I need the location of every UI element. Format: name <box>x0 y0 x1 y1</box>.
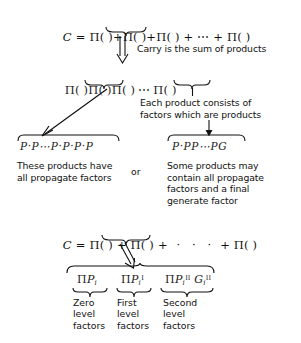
expansion-ellipsis: ⋯ <box>138 83 150 97</box>
second-equation-equals: = <box>76 238 86 252</box>
top-equation: C=Π( )+Π( )+Π( ) + ⋯ + Π( ) <box>55 16 250 44</box>
level-term-first: ΠPiI <box>121 273 144 287</box>
level-label-zero: Zero level factors <box>73 297 105 331</box>
g-symbol: G <box>194 273 203 286</box>
underbrace-level-first <box>116 288 152 297</box>
top-equation-term-4: Π( ) <box>227 30 250 44</box>
plus-sign: + <box>216 238 234 252</box>
left-product-expression: P·P⋯P·P·P·P <box>20 140 93 152</box>
superscript-roman-i: I <box>141 274 144 282</box>
p-symbol: P <box>175 273 183 286</box>
underbrace-level-zero <box>72 288 108 297</box>
level-term-zero: ΠPi <box>77 273 97 287</box>
or-separator: or <box>131 166 141 177</box>
pi-symbol: Π <box>77 273 87 286</box>
down-double-arrow-top <box>114 36 132 64</box>
p-symbol: P <box>87 273 95 286</box>
overbrace-levels <box>66 263 216 273</box>
superscript-roman-ii: II <box>206 274 211 282</box>
second-equation-ellipsis: · · · <box>177 238 212 252</box>
p-symbol: P <box>131 273 139 286</box>
top-equation-term-3: Π( ) <box>156 30 179 44</box>
pi-symbol: Π <box>121 273 131 286</box>
right-product-caption: Some products may contain all propagate … <box>167 160 264 206</box>
plus-sign: + <box>209 30 227 44</box>
top-equation-ellipsis: ⋯ <box>197 30 209 44</box>
level-label-first: First level factors <box>117 297 149 331</box>
underbrace-top-term2 <box>105 27 147 36</box>
pi-symbol: Π <box>165 273 175 286</box>
plus-sign: + <box>180 30 198 44</box>
underbrace-level-second <box>160 288 214 297</box>
tick-expansion-term4 <box>191 88 194 96</box>
top-equation-lhs: C <box>63 30 72 44</box>
subscript-i: i <box>95 279 98 287</box>
second-equation-lhs: C <box>63 238 72 252</box>
diagonal-arrow-to-left-product <box>38 88 110 138</box>
plus-sign: + <box>146 30 156 44</box>
right-product-expression: P·PP⋯PG <box>172 140 227 152</box>
carry-annotation: Carry is the sum of products <box>137 43 266 55</box>
level-label-second: Second level factors <box>163 297 197 331</box>
top-equation-equals: = <box>76 30 86 44</box>
plus-sign: + <box>154 238 172 252</box>
left-product-caption: These products have all propagate factor… <box>17 160 112 183</box>
second-equation: C=Π( ) + Π( ) + · · · + Π( ) <box>55 224 257 252</box>
level-term-second: ΠPiII GiII <box>165 273 211 287</box>
second-equation-term-3: Π( ) <box>234 238 257 252</box>
each-product-annotation: Each product consists of factors which a… <box>140 97 261 120</box>
